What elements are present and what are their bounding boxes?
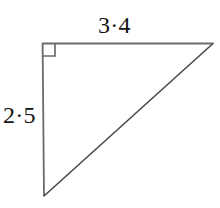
side-length-label-left: 2·5 — [3, 103, 36, 127]
triangle-hypotenuse — [44, 44, 213, 197]
geometry-figure: 3·4 2·5 — [0, 0, 220, 208]
right-angle-marker-icon — [42, 44, 55, 56]
triangle-left-side — [43, 43, 44, 196]
side-length-label-top: 3·4 — [98, 13, 131, 37]
